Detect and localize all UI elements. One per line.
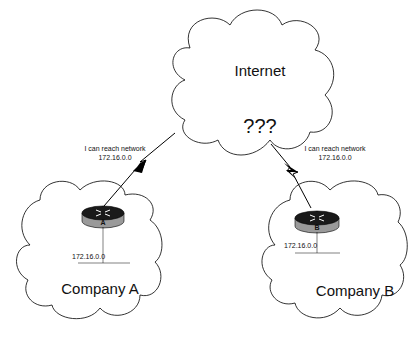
company-b-advert-line1: I can reach network <box>290 144 380 153</box>
company-a-advert-line1: I can reach network <box>70 144 160 153</box>
company-b-name: Company B <box>305 282 405 299</box>
company-a-name: Company A <box>50 280 150 297</box>
internet-status: ??? <box>225 115 295 138</box>
internet-title: Internet <box>220 62 300 79</box>
company-a-advert: I can reach network 172.16.0.0 <box>70 144 160 162</box>
company-a-advert-line2: 172.16.0.0 <box>70 153 160 162</box>
lightning-bolt-b-icon <box>284 163 298 180</box>
company-b-advert-line2: 172.16.0.0 <box>290 153 380 162</box>
company-a-network: 172.16.0.0 <box>72 253 105 260</box>
company-a-cloud <box>16 181 161 319</box>
company-b-advert: I can reach network 172.16.0.0 <box>290 144 380 162</box>
router-b-label: B <box>312 224 322 231</box>
router-a-label: A <box>98 219 108 226</box>
company-b-network: 172.16.0.0 <box>284 242 317 249</box>
